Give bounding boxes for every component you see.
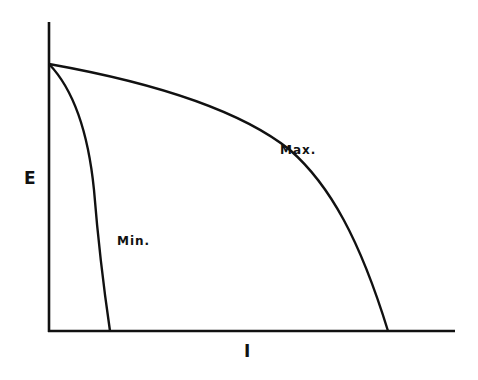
- max-curve-label: Max.: [280, 143, 316, 157]
- max-curve: [49, 64, 388, 331]
- min-curve-label: Min.: [117, 234, 150, 248]
- x-axis-label: I: [244, 341, 250, 361]
- chart-plot: [0, 0, 478, 380]
- y-axis-label: E: [24, 168, 36, 188]
- min-curve: [49, 64, 110, 331]
